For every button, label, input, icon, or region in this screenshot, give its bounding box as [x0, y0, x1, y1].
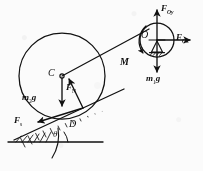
label-pulley-reaction-x-sub: Ox [182, 38, 189, 44]
label-friction-force-sub: s [20, 121, 22, 127]
label-moment: M [120, 57, 129, 67]
angle-arc [64, 132, 68, 142]
label-cylinder-center: C [48, 68, 55, 78]
label-pulley-weight-tail: g [156, 73, 161, 83]
label-normal-force: FN [66, 83, 76, 94]
label-normal-force-sub: N [72, 88, 76, 94]
physics-diagram: C m2g FN Fs D θ O M FOy FOx m1g [0, 0, 203, 171]
label-angle: θ [53, 130, 57, 139]
label-cylinder-weight-tail: g [32, 92, 37, 102]
label-pulley-reaction-y-sub: Oy [167, 9, 174, 15]
label-pulley-center: O [141, 30, 148, 40]
label-friction-force: Fs [14, 116, 22, 127]
label-cylinder-weight: m2g [22, 93, 36, 104]
diagram-canvas [0, 0, 203, 171]
label-pulley-weight: m1g [146, 74, 160, 85]
label-cylinder-weight-symbol: m [22, 92, 29, 102]
cord [62, 29, 149, 76]
label-pulley-weight-symbol: m [146, 73, 153, 83]
label-contact-point: D [69, 119, 76, 129]
pivot-ground-hatch [150, 53, 162, 56]
label-pulley-reaction-y: FOy [161, 4, 174, 15]
label-pulley-reaction-x: FOx [176, 33, 189, 44]
